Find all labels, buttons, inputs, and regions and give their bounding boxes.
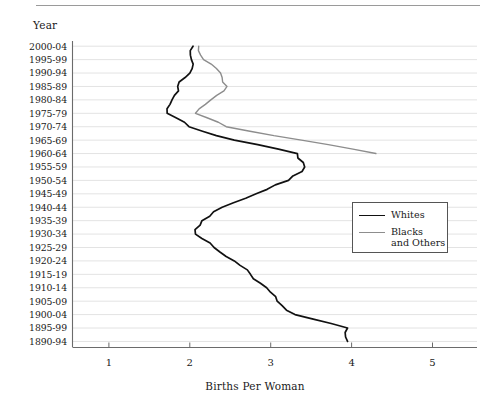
figure-root: Year 2000-041995-991990-941985-891980-84…	[0, 0, 494, 408]
legend-box: Whites Blacks and Others	[352, 202, 448, 253]
x-axis-tick-label: 2	[187, 358, 193, 368]
legend-line-swatch-whites	[359, 215, 385, 217]
legend-line-swatch-blacks-and-others	[359, 232, 385, 233]
x-axis-title: Births Per Woman	[205, 380, 305, 392]
legend-label-whites: Whites	[391, 210, 425, 221]
legend-label-blacks-and-others: Blacks and Others	[391, 227, 445, 248]
x-axis-tick-label: 3	[268, 358, 274, 368]
legend-entry-whites: Whites	[359, 210, 425, 221]
x-axis-tick-label: 5	[429, 358, 435, 368]
legend-entry-blacks-and-others: Blacks and Others	[359, 227, 445, 248]
x-axis-tick-label: 1	[106, 358, 112, 368]
x-axis-tick-label: 4	[348, 358, 354, 368]
